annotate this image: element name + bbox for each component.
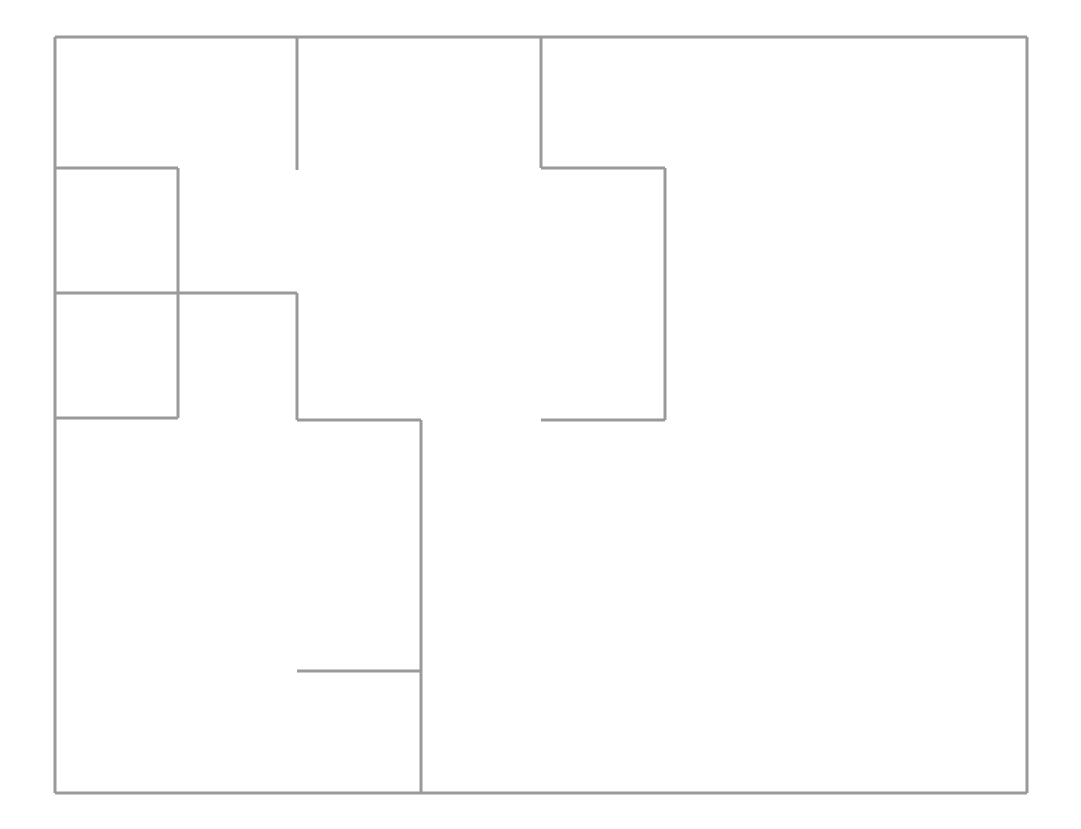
floor-plan-canvas [0,0,1081,829]
floor-plan-drawing [0,0,1081,829]
